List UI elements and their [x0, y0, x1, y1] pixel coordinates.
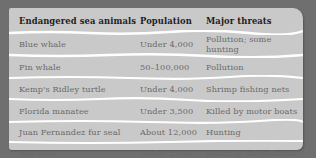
animal-name: Blue whale [19, 39, 66, 49]
threats-value: Pollution [206, 62, 244, 72]
table-header-row: Endangered sea animals Population Major … [9, 11, 303, 31]
table-row: Blue whale Under 4,000 Pollution; some h… [9, 34, 303, 54]
population-value: Under 4,000 [140, 39, 193, 49]
header-animal: Endangered sea animals [19, 16, 136, 26]
table-row: Florida manatee Under 3,500 Killed by mo… [9, 101, 303, 121]
endangered-animals-table: Endangered sea animals Population Major … [9, 8, 303, 150]
population-value: About 12,000 [140, 127, 197, 137]
population-value: Under 4,000 [140, 84, 193, 94]
table-row: Kemp's Ridley turtle Under 4,000 Shrimp … [9, 79, 303, 99]
table-row: Fin whale 50–100,000 Pollution [9, 57, 303, 77]
threats-value: Hunting [206, 127, 241, 137]
threats-value: Hunting; oil pollution [206, 148, 297, 158]
threats-value: Pollution; some hunting [206, 34, 303, 54]
table-row: Juan Fernandez fur seal About 12,000 Hun… [9, 122, 303, 142]
threats-value: Killed by motor boats [206, 106, 297, 116]
population-value: 50–100,000 [140, 62, 189, 72]
population-value: Under 2,500 [140, 148, 193, 158]
table-row: Sea otter Under 2,500 Hunting; oil pollu… [9, 143, 303, 158]
animal-name: Juan Fernandez fur seal [19, 127, 120, 137]
population-value: Under 3,500 [140, 106, 193, 116]
header-threats: Major threats [206, 16, 272, 26]
threats-value: Shrimp fishing nets [206, 84, 289, 94]
animal-name: Sea otter [19, 148, 58, 158]
animal-name: Florida manatee [19, 106, 89, 116]
animal-name: Fin whale [19, 62, 61, 72]
header-population: Population [140, 16, 192, 26]
animal-name: Kemp's Ridley turtle [19, 84, 106, 94]
